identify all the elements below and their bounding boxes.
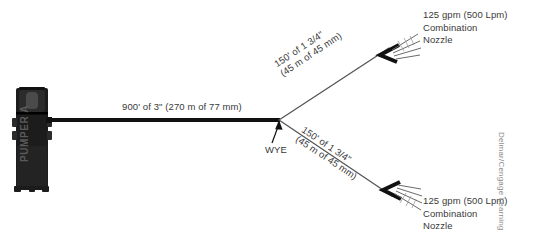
lower-nozzle-flow: 125 gpm (500 Lpm) bbox=[423, 195, 508, 208]
wye-leader-arrow bbox=[272, 120, 283, 143]
upper-nozzle-flow: 125 gpm (500 Lpm) bbox=[423, 9, 508, 22]
upper-combination-nozzle-icon bbox=[380, 34, 421, 62]
upper-nozzle-type-line1: Combination bbox=[423, 22, 508, 35]
hose-lay-diagram: PUMPER A 900' of 3" (270 m of 77 mm) WYE… bbox=[0, 0, 539, 247]
lower-nozzle-label: 125 gpm (500 Lpm) Combination Nozzle bbox=[423, 195, 508, 233]
lower-combination-nozzle-icon bbox=[383, 182, 422, 210]
lower-nozzle-type-line1: Combination bbox=[423, 208, 508, 221]
wye-label: WYE bbox=[265, 144, 287, 156]
lower-nozzle-type-line2: Nozzle bbox=[423, 220, 508, 233]
supply-line-label: 900' of 3" (270 m of 77 mm) bbox=[122, 101, 242, 113]
upper-nozzle-label: 125 gpm (500 Lpm) Combination Nozzle bbox=[423, 9, 508, 47]
attribution-text: Delmar/Cengage Learning bbox=[497, 132, 506, 242]
upper-nozzle-type-line2: Nozzle bbox=[423, 34, 508, 47]
pumper-apparatus-graphic bbox=[12, 87, 52, 192]
